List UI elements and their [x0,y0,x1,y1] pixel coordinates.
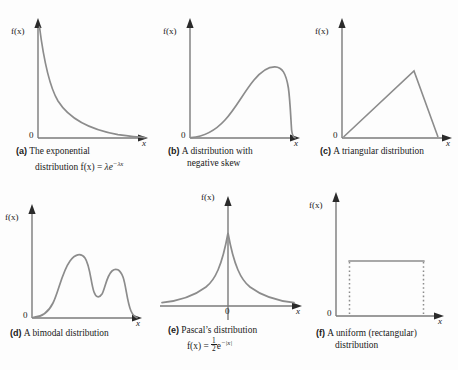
panel-a-tag: (a) [16,146,27,156]
panel-c-plot: f(x) 0 x [304,0,458,150]
distribution-figure: f(x) 0 x (a) The exponential distributio… [0,0,458,370]
panel-f-origin-label: 0 [327,308,332,318]
panel-c-axes [338,18,452,142]
panel-b-curve [191,67,295,138]
panel-c-y-axis-label: f(x) [315,26,329,36]
panel-d-curve [34,255,138,318]
panel-f-tag: (f) [316,328,325,338]
panel-e: f(x) 0 x (e) Pascal’s distribution f(x) … [152,186,304,370]
panel-c-caption: (c) A triangular distribution [320,146,452,158]
panel-d-axes [28,204,142,322]
panel-d-caption-line1: A bimodal distribution [24,328,109,338]
panel-f-caption-line2: distribution [335,340,452,352]
panel-d-plot: f(x) 0 x [0,186,152,336]
panel-e-formula-exponent: −|x| [221,339,232,346]
panel-a-caption-line1: The exponential [29,146,90,156]
panel-e-caption: (e) Pascal’s distribution f(x) = 12e−|x| [168,325,298,353]
panel-d-y-axis-label: f(x) [5,212,19,222]
panel-c-origin-label: 0 [333,130,338,140]
panel-a: f(x) 0 x (a) The exponential distributio… [0,0,152,186]
panel-b-caption-line2: negative skew [187,158,298,170]
panel-f-x-axis-label: x [438,316,442,326]
panel-e-caption-line2: f(x) = 12e−|x| [187,337,298,353]
panel-a-formula-base: λe [105,162,113,172]
panel-d-origin-label: 0 [23,310,28,320]
panel-c-caption-line1: A triangular distribution [333,146,424,156]
panel-e-y-axis-label: f(x) [201,192,215,202]
panel-e-x-axis-label: x [296,306,300,316]
panel-c-tag: (c) [320,146,331,156]
panel-f-plot: f(x) 0 x [304,186,458,336]
panel-b-y-axis-label: f(x) [163,26,177,36]
panel-b-caption-line1: A distribution with [182,146,253,156]
panel-a-caption-prefix: distribution f(x) = [35,162,105,172]
panel-b-axes [186,18,300,142]
panel-b-caption: (b) A distribution with negative skew [168,146,298,169]
panel-e-zero-label: 0 [225,306,230,316]
panel-e-tag: (e) [168,325,179,335]
panel-e-axes [160,196,302,320]
panel-c: f(x) 0 x (c) A triangular distribution [304,0,458,186]
panel-b-plot: f(x) 0 x [152,0,304,150]
panel-grid: f(x) 0 x (a) The exponential distributio… [0,0,458,370]
panel-d-x-axis-label: x [136,318,140,328]
panel-a-caption: (a) The exponential distribution f(x) = … [16,146,146,173]
panel-b: f(x) 0 x (b) A distribution with negativ… [152,0,304,186]
panel-e-plot: f(x) 0 x [152,186,304,336]
panel-a-formula-exponent: −λx [113,160,124,167]
panel-f-y-axis-label: f(x) [309,200,323,210]
panel-f-caption: (f) A uniform (rectangular) distribution [316,328,452,351]
panel-d-tag: (d) [10,328,22,338]
panel-a-y-axis-label: f(x) [11,26,25,36]
panel-d-caption: (d) A bimodal distribution [10,328,146,340]
panel-a-curve [40,27,146,138]
panel-e-formula-prefix: f(x) = [187,341,211,351]
panel-a-origin-label: 0 [29,130,34,140]
panel-f-caption-line1: A uniform (rectangular) [327,328,417,338]
panel-c-curve [344,71,439,137]
panel-b-origin-label: 0 [181,130,186,140]
panel-b-tag: (b) [168,146,180,156]
panel-a-axes [34,18,148,142]
panel-d: f(x) 0 x (d) A bimodal distribution [0,186,152,370]
panel-e-caption-line1: Pascal’s distribution [181,325,257,335]
panel-a-plot: f(x) 0 x [0,0,152,150]
panel-a-caption-line2: distribution f(x) = λe−λx [35,158,146,174]
panel-f: f(x) 0 x (f) A uniform (rectangular) dis… [304,186,458,370]
